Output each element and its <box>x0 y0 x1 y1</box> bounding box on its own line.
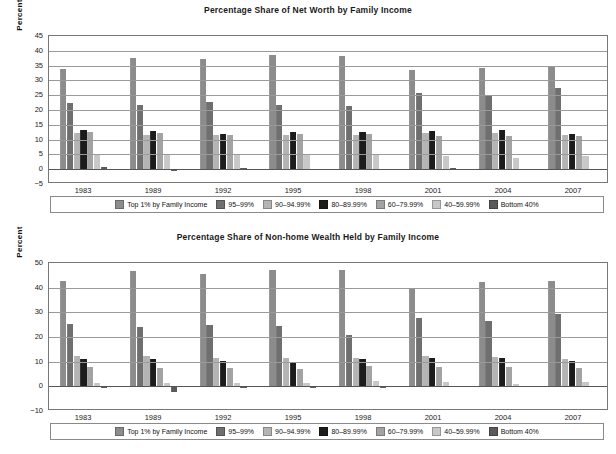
legend-swatch-icon <box>263 200 272 209</box>
legend-swatch-icon <box>432 200 441 209</box>
legend-item[interactable]: 80–89.99% <box>319 427 366 436</box>
gridline <box>49 140 607 141</box>
bar <box>562 359 568 386</box>
bar <box>576 368 582 386</box>
bar-group <box>258 36 328 182</box>
bar <box>130 58 136 169</box>
legend-item[interactable]: 90–94.99% <box>263 427 310 436</box>
bar-group <box>49 36 119 182</box>
legend-item[interactable]: Bottom 40% <box>489 200 539 209</box>
x-tick-label: 1995 <box>258 183 328 195</box>
bar <box>94 154 100 169</box>
bar-group <box>328 36 398 182</box>
x-axis-ticks: 19831989199219951998200120042007 <box>48 410 608 422</box>
bar <box>429 131 435 169</box>
bar <box>137 105 143 169</box>
legend-item[interactable]: 95–99% <box>216 200 254 209</box>
bar <box>436 367 442 386</box>
bar <box>346 335 352 387</box>
legend-label: 40–59.99% <box>444 428 479 435</box>
bar-group <box>398 36 468 182</box>
bar <box>443 156 449 169</box>
bar <box>555 88 561 169</box>
y-tick-label: 40 <box>21 45 43 54</box>
y-tick-label: 10 <box>21 134 43 143</box>
legend-swatch-icon <box>263 427 272 436</box>
x-axis-ticks: 19831989199219951998200120042007 <box>48 183 608 195</box>
legend-label: Bottom 40% <box>501 201 539 208</box>
gridline <box>49 80 607 81</box>
legend-label: 80–89.99% <box>331 201 366 208</box>
bar <box>276 105 282 170</box>
bar <box>297 369 303 386</box>
bar <box>339 56 345 169</box>
y-axis-ticks: 50403020100−10 <box>22 262 46 410</box>
bar <box>499 130 505 170</box>
legend-label: 40–59.99% <box>444 201 479 208</box>
chart-panel-non-home-wealth: Percentage Share of Non-home Wealth Held… <box>0 227 616 454</box>
x-tick-label: 1983 <box>48 183 118 195</box>
bar <box>422 356 428 386</box>
x-tick-label: 2007 <box>538 410 608 422</box>
gridline <box>49 288 607 289</box>
bar <box>164 154 170 169</box>
bar <box>137 327 143 386</box>
chart-legend: Top 1% by Family Income95–99%90–94.99%80… <box>50 423 604 440</box>
legend-label: 90–94.99% <box>275 201 310 208</box>
bar <box>303 154 309 169</box>
gridline <box>49 51 607 52</box>
bar <box>416 318 422 387</box>
legend-label: 90–94.99% <box>275 428 310 435</box>
legend-item[interactable]: 80–89.99% <box>319 200 366 209</box>
legend-item[interactable]: Top 1% by Family Income <box>115 427 207 436</box>
y-tick-label: 5 <box>21 149 43 158</box>
bar <box>206 102 212 169</box>
y-tick-label: 50 <box>21 258 43 267</box>
bar <box>67 103 73 169</box>
y-axis-label: Percent <box>15 226 24 257</box>
x-tick-label: 2001 <box>398 183 468 195</box>
bar <box>506 367 512 386</box>
legend-item[interactable]: 95–99% <box>216 427 254 436</box>
bar <box>548 281 554 386</box>
y-tick-label: 0 <box>21 381 43 390</box>
x-tick-label: 1992 <box>188 410 258 422</box>
legend-item[interactable]: 60–79.99% <box>376 200 423 209</box>
legend-label: Top 1% by Family Income <box>127 201 207 208</box>
y-tick-label: 30 <box>21 307 43 316</box>
legend-item[interactable]: 40–59.99% <box>432 200 479 209</box>
y-tick-label: 25 <box>21 90 43 99</box>
bar <box>290 132 296 169</box>
bar <box>506 136 512 169</box>
gridline <box>49 110 607 111</box>
zero-line <box>49 169 607 170</box>
legend-label: Bottom 40% <box>501 428 539 435</box>
bar <box>60 281 66 387</box>
bar <box>346 106 352 169</box>
y-tick-label: −10 <box>21 406 43 415</box>
bar <box>150 359 156 387</box>
legend-swatch-icon <box>319 427 328 436</box>
bar <box>569 361 575 387</box>
x-tick-label: 1983 <box>48 410 118 422</box>
legend-item[interactable]: 60–79.99% <box>376 427 423 436</box>
bar <box>290 362 296 387</box>
y-tick-label: 40 <box>21 282 43 291</box>
bar-group <box>537 36 607 182</box>
bar <box>143 356 149 387</box>
legend-item[interactable]: 90–94.99% <box>263 200 310 209</box>
legend-swatch-icon <box>376 200 385 209</box>
bar <box>276 326 282 387</box>
legend-item[interactable]: Top 1% by Family Income <box>115 200 207 209</box>
legend-item[interactable]: Bottom 40% <box>489 427 539 436</box>
legend-swatch-icon <box>432 427 441 436</box>
x-tick-label: 1998 <box>328 410 398 422</box>
x-tick-label: 1989 <box>118 410 188 422</box>
y-axis-ticks: 454035302520151050−5 <box>22 35 46 183</box>
bar <box>366 366 372 387</box>
legend-item[interactable]: 40–59.99% <box>432 427 479 436</box>
legend-swatch-icon <box>115 427 124 436</box>
bar <box>582 156 588 169</box>
bar <box>373 154 379 169</box>
bar <box>220 361 226 386</box>
